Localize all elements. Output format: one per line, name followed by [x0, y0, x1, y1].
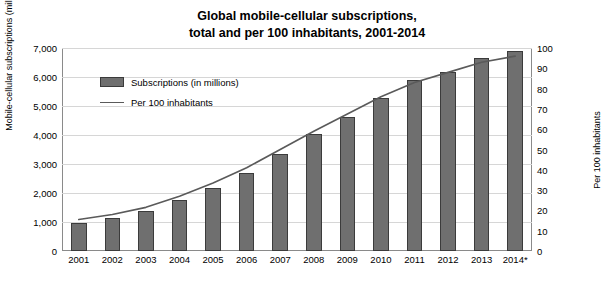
x-axis-tick: 2001 — [68, 254, 89, 265]
y-axis-title-left: Mobile-cellular subscriptions (millions) — [4, 0, 14, 150]
y-axis-right-tick: 40 — [537, 164, 548, 175]
y-axis-right-tick: 20 — [537, 205, 548, 216]
x-axis-tick: 2002 — [102, 254, 123, 265]
x-axis-labels: 2001200220032004200520062007200820092010… — [62, 254, 532, 272]
chart-container: Global mobile-cellular subscriptions, to… — [0, 0, 614, 303]
x-axis-tick: 2004 — [169, 254, 190, 265]
chart-title: Global mobile-cellular subscriptions, to… — [0, 8, 614, 42]
legend-label-subscriptions: Subscriptions (in millions) — [131, 77, 239, 88]
chart-title-line-1: Global mobile-cellular subscriptions, — [0, 8, 614, 25]
y-axis-left-tick: 7,000 — [33, 43, 57, 54]
y-axis-title-right: Per 100 inhabitants — [592, 85, 602, 215]
y-axis-left-tick: 3,000 — [33, 159, 57, 170]
chart-title-line-2: total and per 100 inhabitants, 2001-2014 — [0, 25, 614, 42]
x-axis-tick: 2005 — [202, 254, 223, 265]
x-axis-tick: 2012 — [437, 254, 458, 265]
y-axis-right-tick: 0 — [537, 246, 542, 257]
y-axis-left-tick: 6,000 — [33, 72, 57, 83]
y-axis-right-tick: 30 — [537, 185, 548, 196]
chart-legend: Subscriptions (in millions) Per 100 inha… — [100, 74, 239, 114]
y-axis-right-tick: 10 — [537, 225, 548, 236]
x-axis-tick: 2009 — [337, 254, 358, 265]
legend-item-per-100: Per 100 inhabitants — [100, 94, 239, 110]
y-axis-left-tick: 2,000 — [33, 188, 57, 199]
x-axis-tick: 2003 — [135, 254, 156, 265]
y-axis-left-tick: 5,000 — [33, 101, 57, 112]
legend-item-subscriptions: Subscriptions (in millions) — [100, 74, 239, 90]
y-axis-left-tick: 1,000 — [33, 217, 57, 228]
legend-label-per-100: Per 100 inhabitants — [131, 97, 213, 108]
y-axis-right-tick: 50 — [537, 144, 548, 155]
y-axis-right-tick: 100 — [537, 43, 553, 54]
x-axis-tick: 2007 — [270, 254, 291, 265]
y-axis-right-tick: 60 — [537, 124, 548, 135]
y-axis-left-tick: 0 — [52, 246, 57, 257]
x-axis-tick: 2008 — [303, 254, 324, 265]
legend-bar-swatch-icon — [100, 77, 124, 87]
x-axis-tick: 2013 — [471, 254, 492, 265]
x-axis-tick: 2014* — [503, 254, 528, 265]
y-axis-right-tick: 80 — [537, 83, 548, 94]
y-axis-right-tick: 90 — [537, 63, 548, 74]
x-axis-tick: 2010 — [370, 254, 391, 265]
y-axis-right-tick: 70 — [537, 103, 548, 114]
y-axis-left-tick: 4,000 — [33, 130, 57, 141]
x-axis-tick: 2011 — [404, 254, 424, 265]
x-axis-tick: 2006 — [236, 254, 257, 265]
legend-line-swatch-icon — [100, 97, 124, 107]
